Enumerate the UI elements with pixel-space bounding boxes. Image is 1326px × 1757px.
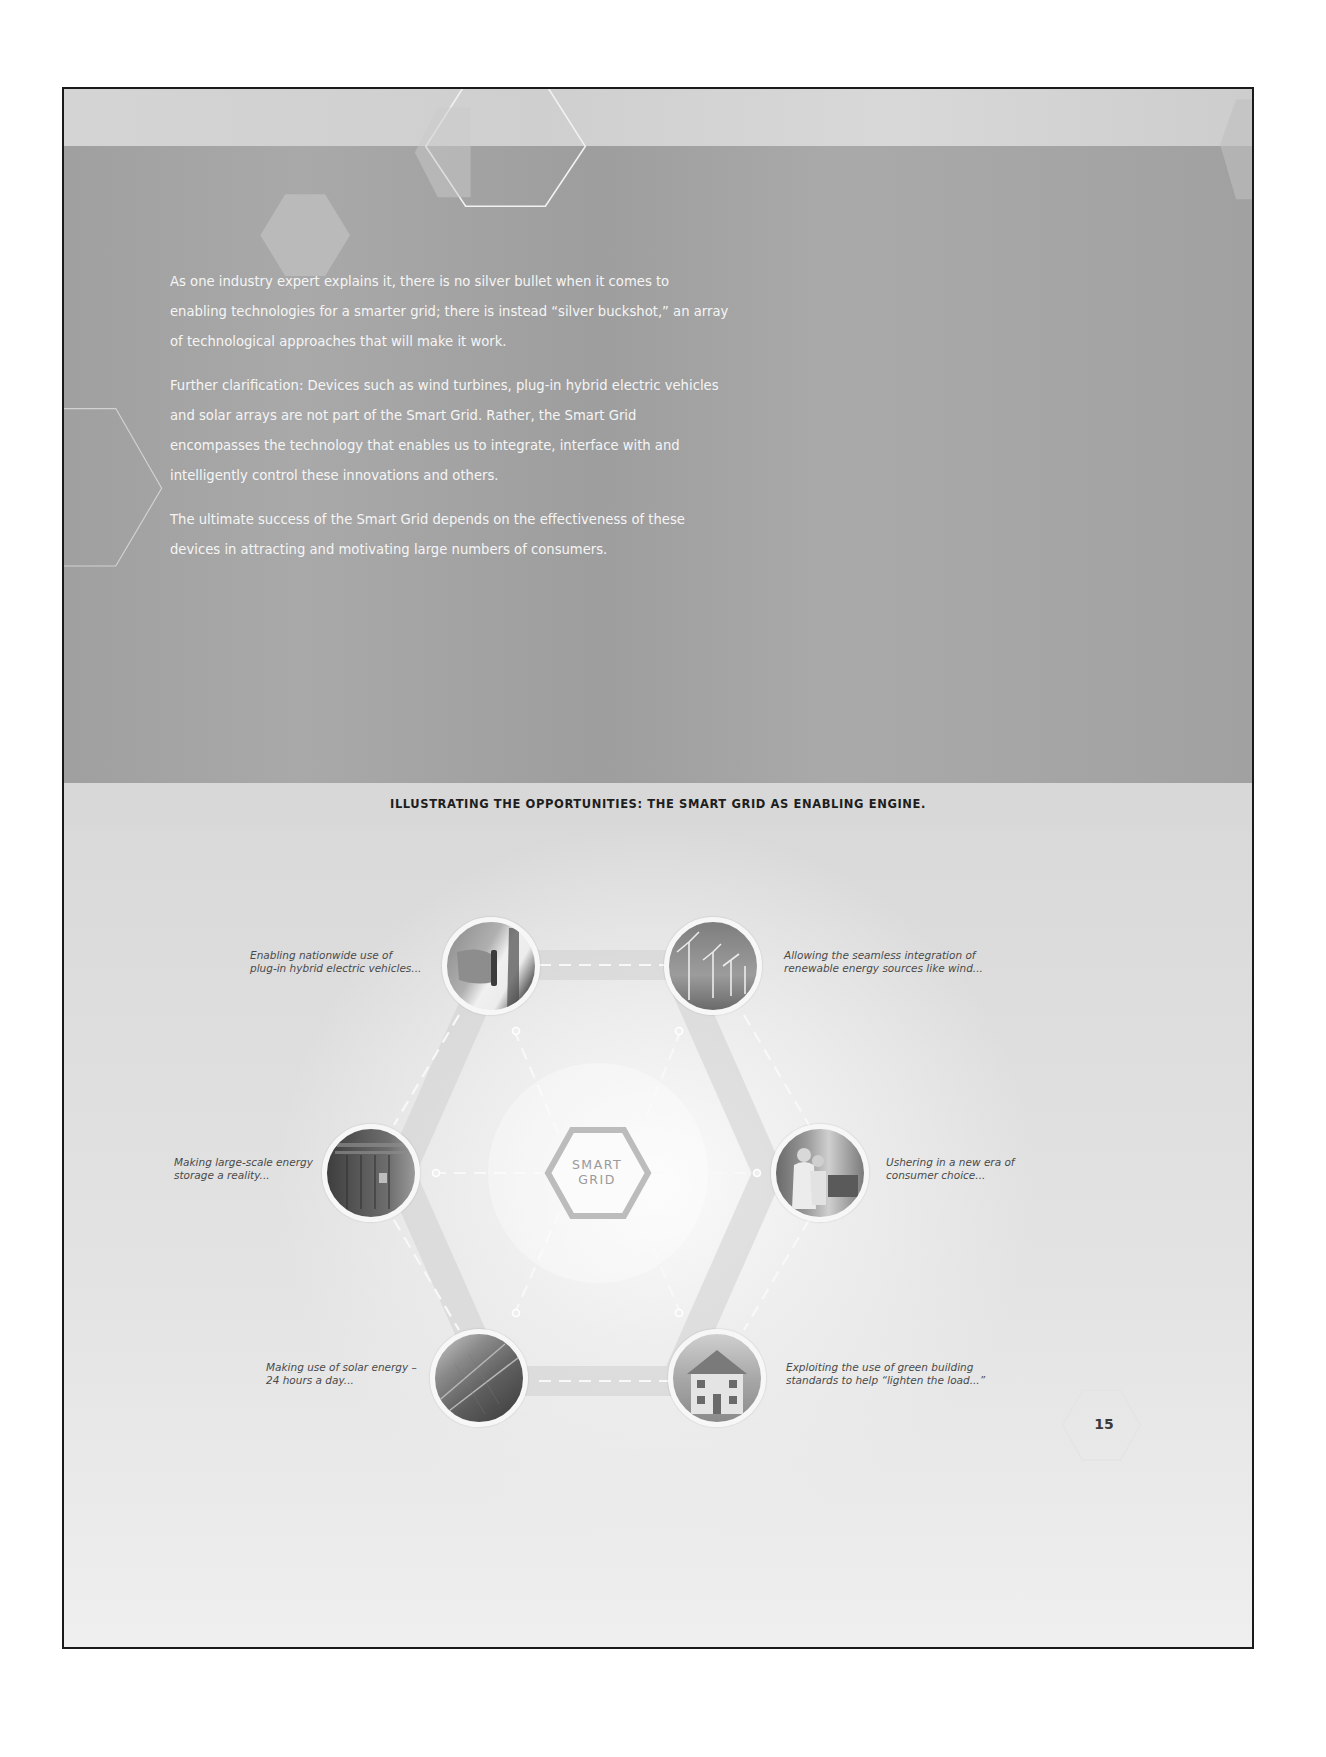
node-consumer <box>771 1124 869 1222</box>
smart-grid-label: SMART GRID <box>545 1157 649 1187</box>
solar-panel-icon <box>435 1334 523 1422</box>
node-storage <box>322 1124 420 1222</box>
intro-text: As one industry expert explains it, ther… <box>170 267 730 579</box>
house-icon <box>673 1334 761 1422</box>
node-green-building <box>668 1329 766 1427</box>
smart-grid-label-line2: GRID <box>545 1172 649 1187</box>
section-title-band: ILLUSTRATING THE OPPORTUNITIES: THE SMAR… <box>64 783 1252 825</box>
intro-paragraph-2: Further clarification: Devices such as w… <box>170 371 730 491</box>
caption-storage: Making large-scale energy storage a real… <box>174 1156 324 1182</box>
smart-grid-diagram <box>64 825 1254 1649</box>
caption-consumer: Ushering in a new era of consumer choice… <box>886 1156 1066 1182</box>
caption-phev: Enabling nationwide use of plug-in hybri… <box>250 949 440 975</box>
caption-solar: Making use of solar energy – 24 hours a … <box>266 1361 426 1387</box>
document-page: As one industry expert explains it, ther… <box>62 87 1254 1649</box>
ev-plug-icon <box>447 922 535 1010</box>
intro-paragraph-3: The ultimate success of the Smart Grid d… <box>170 505 730 565</box>
intro-paragraph-1: As one industry expert explains it, ther… <box>170 267 730 357</box>
top-strip <box>64 89 1252 146</box>
smart-grid-label-line1: SMART <box>545 1157 649 1172</box>
page-number: 15 <box>1074 1416 1134 1432</box>
node-phev <box>442 917 540 1015</box>
energy-storage-icon <box>327 1129 415 1217</box>
node-solar <box>430 1329 528 1427</box>
consumer-icon <box>776 1129 864 1217</box>
node-wind <box>664 917 762 1015</box>
section-title: ILLUSTRATING THE OPPORTUNITIES: THE SMAR… <box>390 797 926 811</box>
caption-green-building: Exploiting the use of green building sta… <box>786 1361 1026 1387</box>
wind-turbine-icon <box>669 922 757 1010</box>
caption-wind: Allowing the seamless integration of ren… <box>784 949 1044 975</box>
